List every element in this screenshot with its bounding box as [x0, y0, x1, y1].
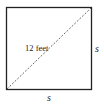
square-diagram: 12 feet s s: [0, 0, 104, 104]
diagonal-dashed-line: [7, 8, 91, 89]
diagonal-label: 12 feet: [25, 43, 49, 53]
side-label-right: s: [95, 43, 99, 54]
side-label-bottom: s: [47, 92, 51, 103]
